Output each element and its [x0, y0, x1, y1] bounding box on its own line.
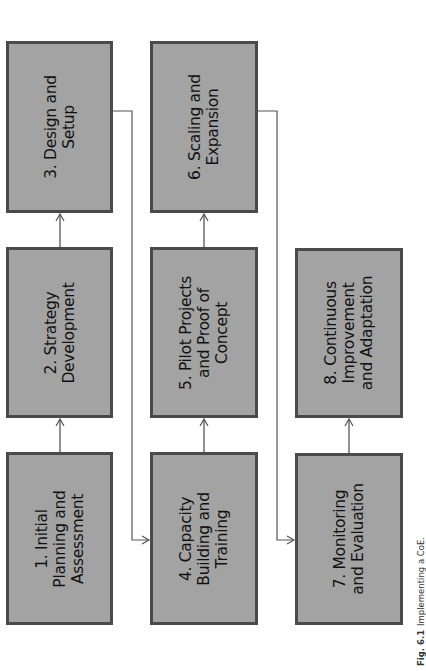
step-box-4: 4. Capacity Building and Training: [150, 452, 258, 625]
step-box-1: 1. Initial Planning and Assessment: [6, 452, 113, 625]
step-label-1: 1. Initial Planning and Assessment: [33, 456, 87, 622]
connector-3-4: [113, 111, 149, 540]
step-label-2: 2. Strategy Development: [42, 250, 78, 416]
step-label-5: 5. Pilot Projects and Proof of Concept: [177, 250, 231, 416]
figure-caption: Fig. 6.1Implementing a CoE.: [416, 537, 426, 666]
step-box-2: 2. Strategy Development: [6, 247, 113, 418]
connector-6-7: [258, 111, 294, 540]
step-label-3: 3. Design and Setup: [42, 44, 78, 210]
step-box-3: 3. Design and Setup: [6, 41, 113, 213]
figure-caption-text: Implementing a CoE.: [416, 537, 426, 626]
step-label-4: 4. Capacity Building and Training: [177, 456, 231, 622]
step-box-6: 6. Scaling and Expansion: [150, 41, 258, 213]
figure-number: Fig. 6.1: [416, 630, 426, 666]
step-box-7: 7. Monitoring and Evaluation: [295, 453, 403, 625]
step-label-8: 8. Continuous Improvement and Adaptation: [322, 250, 376, 416]
step-box-8: 8. Continuous Improvement and Adaptation: [295, 248, 403, 418]
step-box-5: 5. Pilot Projects and Proof of Concept: [150, 247, 258, 418]
step-label-7: 7. Monitoring and Evaluation: [331, 456, 367, 622]
step-label-6: 6. Scaling and Expansion: [186, 44, 222, 210]
